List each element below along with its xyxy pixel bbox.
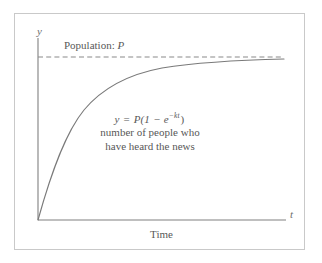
asymptote-label-prefix: Population:	[64, 39, 115, 51]
formula-rhs-open: P(1	[134, 113, 150, 125]
curve-annotation-block: y = P(1 − e−kt) number of people who hav…	[60, 113, 240, 153]
y-axis-label: y	[37, 26, 42, 37]
formula-minus: −	[153, 113, 161, 125]
figure-root: y t Population: P y = P(1 − e−kt) number…	[0, 0, 322, 263]
asymptote-label-symbol: P	[117, 39, 124, 51]
caption-line-1: number of people who	[60, 126, 240, 139]
formula-rhs-close: )	[180, 113, 186, 125]
t-axis-label: t	[290, 209, 293, 220]
x-axis-caption: Time	[38, 229, 285, 240]
caption-line-2: have heard the news	[60, 140, 240, 153]
formula-exponent: −kt	[169, 111, 180, 120]
curve-formula: y = P(1 − e−kt)	[60, 113, 240, 126]
formula-equals: =	[122, 113, 130, 125]
asymptote-label: Population: P	[64, 40, 124, 51]
